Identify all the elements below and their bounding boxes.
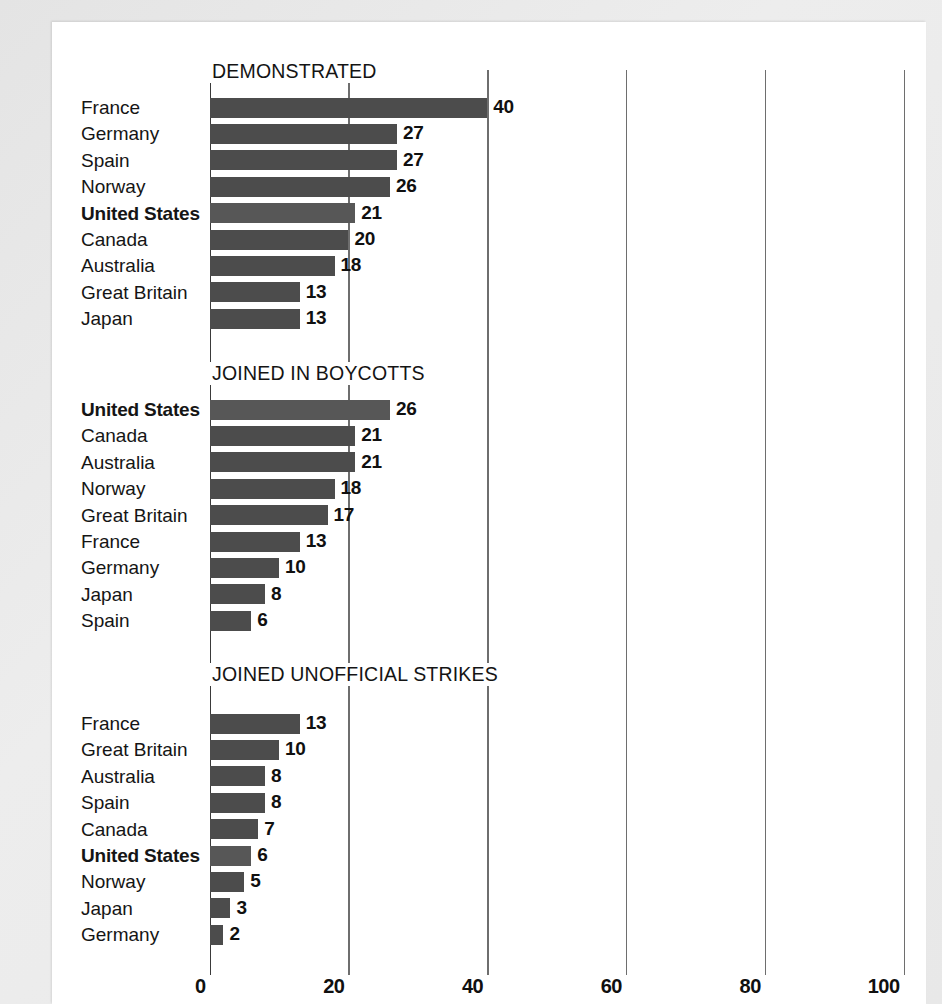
category-label: Germany [81, 123, 201, 144]
bar [210, 400, 390, 420]
bar [210, 505, 328, 525]
bar [210, 898, 231, 918]
bar-value-label: 18 [341, 477, 362, 498]
bar [210, 766, 266, 786]
bar [210, 846, 252, 866]
bar-row: Great Britain13 [52, 281, 926, 307]
bar-value-label: 13 [306, 712, 327, 733]
bar-value-label: 8 [271, 791, 281, 812]
category-label: Great Britain [81, 282, 201, 303]
category-label: Great Britain [81, 739, 201, 760]
bar [210, 98, 488, 118]
bar-value-label: 21 [361, 202, 382, 223]
bar-row: Norway18 [52, 477, 926, 503]
x-tick-label-80: 80 [740, 975, 765, 997]
bar-row: United States21 [52, 202, 926, 228]
bar-value-label: 21 [361, 451, 382, 472]
bar-row: Great Britain10 [52, 738, 926, 764]
bar-value-label: 27 [403, 149, 424, 170]
bar-value-label: 8 [271, 583, 281, 604]
panel-title: JOINED IN BOYCOTTS [210, 362, 428, 385]
category-label: Spain [81, 610, 201, 631]
bar-value-label: 27 [403, 122, 424, 143]
bar-row: Japan13 [52, 307, 926, 333]
bar [210, 611, 252, 631]
category-label: Australia [81, 255, 201, 276]
bar-row: Spain6 [52, 609, 926, 635]
bar [210, 150, 397, 170]
bar [210, 124, 397, 144]
bar [210, 819, 259, 839]
bar [210, 309, 300, 329]
bar-row: Germany2 [52, 923, 926, 949]
bar-value-label: 13 [306, 307, 327, 328]
bar [210, 177, 390, 197]
category-label: Norway [81, 176, 201, 197]
bar-value-label: 10 [285, 738, 306, 759]
bar-row: Australia21 [52, 451, 926, 477]
bar-row: Germany27 [52, 122, 926, 148]
bar-row: Australia18 [52, 254, 926, 280]
bar-value-label: 8 [271, 765, 281, 786]
x-tick-label-60: 60 [601, 975, 626, 997]
bar-row: France13 [52, 530, 926, 556]
bar-row: United States6 [52, 844, 926, 870]
bar [210, 584, 266, 604]
bar-row: Japan8 [52, 583, 926, 609]
bar-value-label: 17 [334, 504, 355, 525]
x-tick-label-20: 20 [323, 975, 348, 997]
bar-row: Australia8 [52, 765, 926, 791]
bar-value-label: 26 [396, 398, 417, 419]
bar [210, 479, 335, 499]
bar-value-label: 40 [493, 96, 514, 117]
bar [210, 532, 300, 552]
bar-row: Great Britain17 [52, 504, 926, 530]
category-label: Australia [81, 452, 201, 473]
bar-row: Japan3 [52, 897, 926, 923]
category-label: Germany [81, 924, 201, 945]
category-label: United States [81, 399, 201, 420]
bar-row: United States26 [52, 398, 926, 424]
bar-value-label: 18 [341, 254, 362, 275]
bar-row: Canada20 [52, 228, 926, 254]
grouped-bar-chart: DEMONSTRATEDFrance40Germany27Spain27Norw… [52, 22, 926, 1004]
bar-value-label: 5 [250, 870, 260, 891]
category-label: Canada [81, 425, 201, 446]
panel-title: JOINED UNOFFICIAL STRIKES [210, 663, 501, 686]
category-label: Australia [81, 766, 201, 787]
category-label: Japan [81, 308, 201, 329]
bar-value-label: 7 [264, 818, 274, 839]
bar-row: France40 [52, 96, 926, 122]
category-label: Japan [81, 584, 201, 605]
bar-row: Spain27 [52, 149, 926, 175]
category-label: Canada [81, 229, 201, 250]
bar-row: Norway26 [52, 175, 926, 201]
panel-title: DEMONSTRATED [210, 60, 380, 83]
x-tick-label-40: 40 [462, 975, 487, 997]
bar [210, 256, 335, 276]
bar [210, 282, 300, 302]
category-label: France [81, 97, 201, 118]
bar [210, 793, 266, 813]
bar-value-label: 3 [236, 897, 246, 918]
bar-value-label: 13 [306, 530, 327, 551]
category-label: France [81, 713, 201, 734]
bar [210, 558, 279, 578]
category-label: Canada [81, 819, 201, 840]
bar [210, 452, 356, 472]
bar-row: Canada21 [52, 424, 926, 450]
bar-row: Canada7 [52, 818, 926, 844]
category-label: United States [81, 845, 201, 866]
bar [210, 740, 279, 760]
category-label: Spain [81, 150, 201, 171]
chart-page: DEMONSTRATEDFrance40Germany27Spain27Norw… [52, 22, 926, 1004]
bar-value-label: 21 [361, 424, 382, 445]
bar-value-label: 6 [257, 844, 267, 865]
category-label: Japan [81, 898, 201, 919]
bar-value-label: 20 [354, 228, 375, 249]
bar-row: Spain8 [52, 791, 926, 817]
bar [210, 426, 356, 446]
bar-row: Germany10 [52, 556, 926, 582]
category-label: Great Britain [81, 505, 201, 526]
bar-row: Norway5 [52, 870, 926, 896]
